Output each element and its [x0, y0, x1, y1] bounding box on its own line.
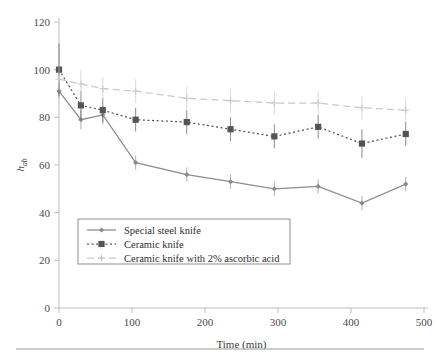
- svg-text:hab: hab: [14, 158, 29, 171]
- x-tick-label: 100: [124, 316, 141, 328]
- data-point-marker: [315, 100, 322, 107]
- line-chart: 0204060801001200100200300400500Time (min…: [0, 0, 437, 358]
- y-tick-label: 120: [34, 16, 51, 28]
- data-point-marker: [78, 81, 85, 88]
- x-tick-label: 0: [56, 316, 62, 328]
- data-point-marker: [184, 172, 189, 177]
- figure-container: 0204060801001200100200300400500Time (min…: [0, 0, 437, 358]
- data-point-marker: [228, 179, 233, 184]
- x-tick-label: 400: [343, 316, 360, 328]
- data-point-marker: [359, 140, 365, 146]
- legend-label: Ceramic knife with 2% ascorbic acid: [124, 253, 280, 264]
- data-point-marker: [315, 124, 321, 130]
- series-line: [59, 70, 406, 144]
- data-point-marker: [100, 107, 106, 113]
- data-point-marker: [133, 117, 139, 123]
- x-tick-label: 500: [416, 316, 433, 328]
- data-point-marker: [359, 201, 364, 206]
- y-axis-title: hab: [14, 158, 29, 171]
- series-line: [59, 91, 406, 203]
- data-point-marker: [272, 186, 277, 191]
- data-point-marker: [316, 184, 321, 189]
- y-tick-label: 60: [39, 159, 51, 171]
- data-point-marker: [78, 102, 84, 108]
- series-1: [56, 84, 408, 210]
- data-point-marker: [132, 88, 139, 95]
- y-tick-label: 40: [39, 207, 51, 219]
- y-tick-label: 100: [34, 64, 51, 76]
- data-point-marker: [402, 107, 409, 114]
- data-point-marker: [403, 131, 409, 137]
- data-point-marker: [98, 241, 104, 247]
- data-point-marker: [227, 126, 233, 132]
- data-point-marker: [183, 95, 190, 102]
- y-tick-label: 80: [39, 111, 51, 123]
- series-line: [59, 79, 406, 110]
- y-tick-label: 20: [39, 254, 51, 266]
- x-tick-label: 200: [197, 316, 214, 328]
- data-point-marker: [403, 181, 408, 186]
- data-point-marker: [271, 100, 278, 107]
- data-point-marker: [184, 119, 190, 125]
- legend-label: Special steel knife: [124, 225, 201, 236]
- data-point-marker: [227, 97, 234, 104]
- x-tick-label: 300: [270, 316, 287, 328]
- series-3: [56, 67, 410, 122]
- data-point-marker: [359, 104, 366, 111]
- data-point-marker: [56, 76, 63, 83]
- y-tick-label: 0: [45, 302, 51, 314]
- legend-label: Ceramic knife: [124, 239, 184, 250]
- data-point-marker: [271, 133, 277, 139]
- data-point-marker: [99, 85, 106, 92]
